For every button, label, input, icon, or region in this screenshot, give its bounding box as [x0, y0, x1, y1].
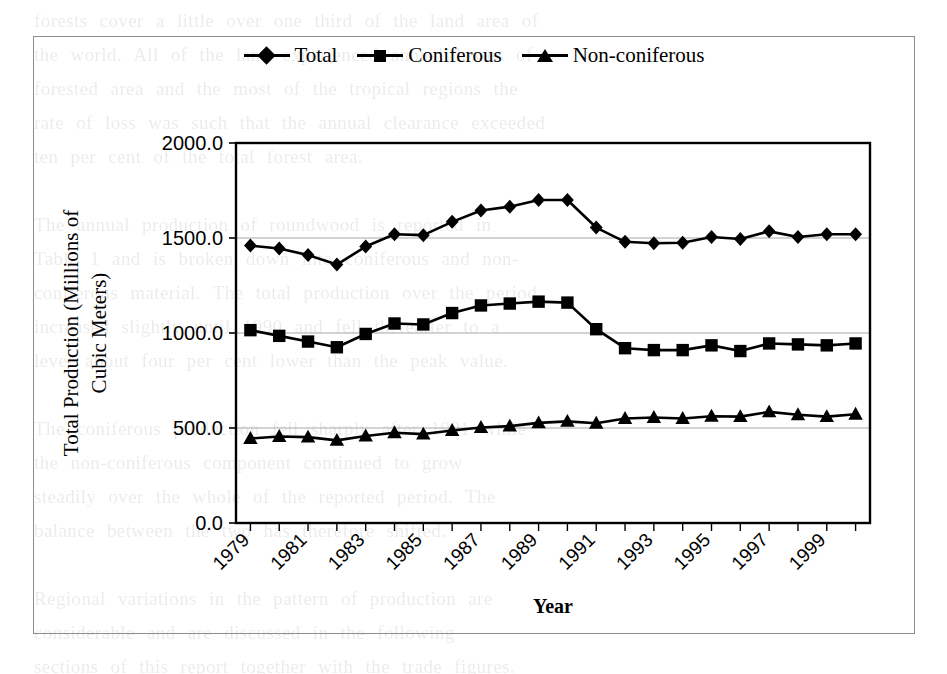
data-point-square-marker [532, 295, 544, 307]
data-point-square-marker [302, 335, 314, 347]
chart-legend: Total Coniferous Non-coniferous [34, 45, 914, 66]
data-point-diamond-marker [734, 232, 747, 246]
legend-entry-non-coniferous: Non-coniferous [522, 45, 705, 66]
data-point-square-marker [676, 344, 688, 356]
data-point-diamond-marker [330, 258, 343, 272]
legend-key-square [357, 47, 403, 65]
legend-key-diamond [244, 47, 290, 65]
x-axis-tick-label: 1997 [727, 529, 772, 574]
x-axis-tick-label: 1985 [381, 529, 426, 574]
data-point-diamond-marker [359, 240, 372, 254]
data-point-diamond-marker [388, 227, 401, 241]
x-axis-tick-label: 1993 [612, 529, 657, 574]
data-point-square-marker [648, 344, 660, 356]
y-axis-tick-label: 1500.0 [162, 227, 223, 249]
data-point-square-marker [705, 339, 717, 351]
data-point-square-marker [504, 297, 516, 309]
data-point-square-marker [561, 296, 573, 308]
data-point-square-marker [446, 307, 458, 319]
data-point-square-marker [331, 341, 343, 353]
x-axis-tick-label: 1995 [670, 529, 715, 574]
x-axis-tick-label: 1987 [439, 529, 484, 574]
data-point-diamond-marker [503, 200, 516, 214]
data-point-diamond-marker [302, 248, 315, 262]
legend-label-total: Total [295, 45, 338, 66]
y-axis-tick-label: 0.0 [195, 512, 223, 534]
data-point-square-marker [619, 342, 631, 354]
data-point-diamond-marker [705, 230, 718, 244]
data-point-diamond-marker [446, 215, 459, 229]
data-point-square-marker [388, 317, 400, 329]
plot-area: 0.0500.01000.01500.02000.019791981198319… [34, 37, 916, 635]
x-axis-tick-label: 1981 [266, 529, 311, 574]
legend-entry-total: Total [244, 45, 338, 66]
line-chart-svg: 0.0500.01000.01500.02000.019791981198319… [34, 37, 916, 635]
square-marker-icon [374, 50, 386, 62]
legend-entry-coniferous: Coniferous [357, 45, 501, 66]
data-point-square-marker [475, 299, 487, 311]
data-point-square-marker [734, 345, 746, 357]
diamond-marker-icon [257, 46, 275, 64]
data-point-diamond-marker [820, 227, 833, 241]
data-point-diamond-marker [849, 227, 862, 241]
x-axis-tick-label: 1989 [497, 529, 542, 574]
y-axis-title-line: Cubic Meters) [87, 273, 111, 394]
y-axis-tick-label: 2000.0 [162, 132, 223, 154]
data-point-triangle-marker [848, 407, 862, 420]
data-point-square-marker [359, 328, 371, 340]
x-axis-tick-label: 1979 [208, 529, 253, 574]
data-point-diamond-marker [763, 224, 776, 238]
data-point-square-marker [821, 339, 833, 351]
data-point-diamond-marker [273, 241, 286, 255]
legend-label-coniferous: Coniferous [408, 45, 501, 66]
data-point-diamond-marker [619, 235, 632, 249]
data-point-square-marker [590, 323, 602, 335]
x-axis-tick-label: 1991 [554, 529, 599, 574]
x-axis-tick-label: 1999 [785, 529, 830, 574]
x-axis-tick-label: 1983 [324, 529, 369, 574]
data-point-diamond-marker [244, 239, 257, 253]
legend-label-non-coniferous: Non-coniferous [573, 45, 705, 66]
data-point-square-marker [792, 338, 804, 350]
data-point-square-marker [763, 337, 775, 349]
data-point-diamond-marker [532, 193, 545, 207]
data-point-square-marker [849, 337, 861, 349]
figure-frame: Total Coniferous Non-coniferous 0.0500.0… [33, 36, 915, 634]
y-axis-tick-label: 500.0 [173, 417, 223, 439]
data-point-diamond-marker [475, 203, 488, 217]
data-point-diamond-marker [417, 228, 430, 242]
data-point-square-marker [417, 318, 429, 330]
y-axis-tick-label: 1000.0 [162, 322, 223, 344]
data-point-diamond-marker [792, 230, 805, 244]
data-point-triangle-marker [762, 404, 776, 417]
y-axis-title-line: Total Production (Millions of [59, 210, 83, 456]
data-point-square-marker [244, 324, 256, 336]
data-point-square-marker [273, 330, 285, 342]
triangle-marker-icon [537, 49, 553, 62]
x-axis-title: Year [533, 595, 573, 617]
legend-key-triangle [522, 47, 568, 65]
